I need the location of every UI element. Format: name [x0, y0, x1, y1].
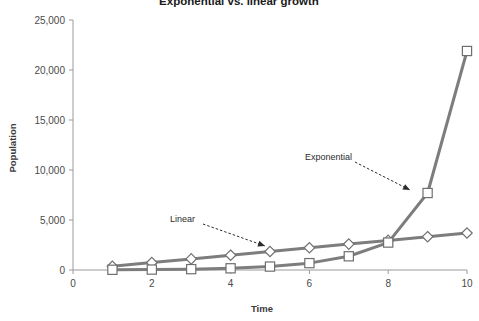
chart-background: [0, 0, 479, 321]
square-marker: [462, 46, 471, 55]
x-tick-label: 6: [307, 278, 313, 289]
square-marker: [305, 259, 314, 268]
x-tick-label: 0: [70, 278, 76, 289]
square-marker: [187, 265, 196, 274]
y-tick-label: 0: [59, 265, 65, 276]
square-marker: [423, 188, 432, 197]
square-marker: [108, 265, 117, 274]
chart-title: Exponential vs. linear growth: [159, 0, 319, 7]
y-tick-label: 20,000: [34, 65, 65, 76]
square-marker: [344, 252, 353, 261]
square-marker: [226, 264, 235, 273]
chart-container: Exponential vs. linear growth 05,00010,0…: [0, 0, 479, 321]
annotation-label: Exponential: [305, 152, 352, 162]
x-tick-label: 2: [149, 278, 155, 289]
annotation-label: Linear: [170, 214, 195, 224]
y-tick-label: 5,000: [40, 215, 65, 226]
y-tick-label: 25,000: [34, 15, 65, 26]
square-marker: [147, 265, 156, 274]
x-tick-label: 10: [461, 278, 473, 289]
x-axis-title: Time: [251, 303, 273, 314]
square-marker: [265, 262, 274, 271]
y-tick-label: 10,000: [34, 165, 65, 176]
y-axis-title: Population: [7, 123, 18, 172]
square-marker: [384, 238, 393, 247]
exponential-vs-linear-growth-chart: Exponential vs. linear growth 05,00010,0…: [0, 0, 479, 321]
x-tick-label: 4: [228, 278, 234, 289]
y-tick-label: 15,000: [34, 115, 65, 126]
x-tick-label: 8: [385, 278, 391, 289]
